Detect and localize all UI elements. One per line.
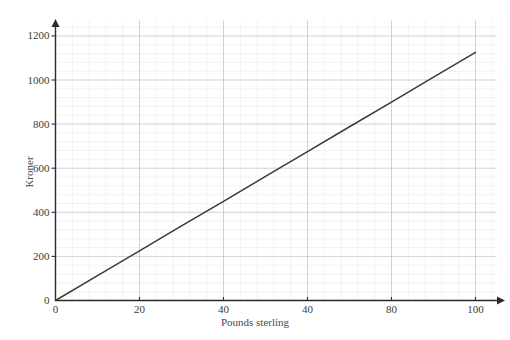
y-axis-tick-label: 200 — [10, 251, 50, 262]
x-axis-tick-label: 40 — [288, 304, 328, 315]
chart-plot-area — [0, 0, 510, 340]
grid-minor — [56, 20, 497, 300]
x-axis-tick-label: 40 — [204, 304, 244, 315]
y-axis-tick-label: 800 — [10, 119, 50, 130]
x-axis-tick-label: 100 — [456, 304, 496, 315]
chart-axes — [56, 26, 499, 301]
y-axis-tick-label: 0 — [10, 295, 50, 306]
chart-series-lines — [56, 52, 476, 300]
x-axis-title: Pounds sterling — [0, 317, 510, 328]
y-axis-title: Kroner — [24, 142, 35, 202]
x-axis-tick-label: 20 — [120, 304, 160, 315]
y-axis-tick-label: 400 — [10, 207, 50, 218]
y-axis-tick-label: 1200 — [10, 30, 50, 41]
y-axis-tick-label: 1000 — [10, 75, 50, 86]
x-axis-tick-label: 80 — [372, 304, 412, 315]
chart-container: 020404080100 020040060080010001200 Pound… — [0, 0, 510, 340]
